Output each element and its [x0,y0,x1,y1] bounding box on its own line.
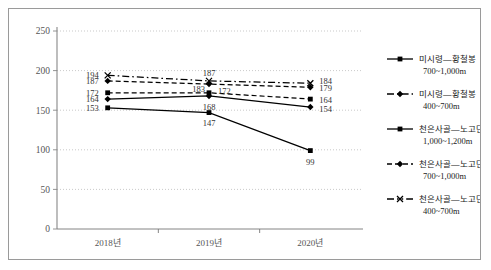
marker-square [398,57,403,62]
series-2: 164168154 [86,93,333,114]
y-tick-label: 200 [36,66,51,76]
legend-item-4[interactable]: 천은사골—노고단400~700m [387,194,480,216]
legend-label-line1: 미시령—황철봉 [419,89,476,99]
y-gridlines: 050100150200250 [36,26,363,234]
data-point-label: 184 [319,76,333,86]
legend-item-1[interactable]: 미시령—황철봉400~700m [387,89,476,111]
series-0: 15314799 [86,103,315,167]
data-point-label: 172 [218,86,231,96]
marker-square [398,127,403,132]
marker-diamond [104,78,110,84]
legend-item-2[interactable]: 천은사골—노고단1,000~1,200m [387,124,480,146]
marker-diamond [397,161,403,167]
legend-label-line1: 천은사골—노고단 [419,124,480,134]
legend-item-0[interactable]: 미시령—황철봉700~1,000m [387,54,476,76]
marker-diamond [397,91,403,97]
legend: 미시령—황철봉700~1,000m미시령—황철봉400~700m천은사골—노고단… [387,54,480,216]
legend-label-line1: 천은사골—노고단 [419,159,480,169]
marker-diamond [104,96,110,102]
data-point-label: 99 [306,157,315,167]
legend-label-line2: 700~1,000m [423,171,466,181]
legend-label-line2: 700~1,000m [423,66,466,76]
axes [57,27,363,233]
marker-diamond [307,104,313,110]
x-axis-labels: 2018년2019년2020년 [95,238,324,248]
data-point-label: 154 [319,104,333,114]
marker-diamond [206,81,212,87]
y-tick-label: 50 [41,185,51,195]
y-tick-label: 100 [36,145,51,155]
y-tick-label: 150 [36,106,51,116]
chart-figure: 0501001502002502018년2019년2020년1531479917… [8,8,481,260]
y-tick-label: 0 [45,224,50,234]
data-point-label: 153 [86,103,99,113]
x-category-label: 2018년 [95,238,121,248]
data-point-label: 194 [86,70,100,80]
x-category-label: 2020년 [297,238,323,248]
legend-label-line1: 미시령—황철봉 [419,54,476,64]
y-tick-label: 250 [36,26,51,36]
x-category-label: 2019년 [196,238,222,248]
marker-square [308,97,313,102]
line-chart: 0501001502002502018년2019년2020년1531479917… [9,9,480,259]
marker-square [105,105,110,110]
marker-square [105,90,110,95]
data-point-label: 187 [203,68,216,78]
data-point-label: 168 [203,102,216,112]
data-point-label: 164 [86,94,100,104]
legend-label-line2: 1,000~1,200m [423,136,473,146]
legend-item-3[interactable]: 천은사골—노고단700~1,000m [387,159,480,181]
marker-square [308,148,313,153]
legend-label-line2: 400~700m [423,101,460,111]
legend-label-line1: 천은사골—노고단 [419,194,480,204]
data-point-label: 147 [203,118,216,128]
legend-label-line2: 400~700m [423,206,460,216]
data-point-label: 183 [192,84,205,94]
